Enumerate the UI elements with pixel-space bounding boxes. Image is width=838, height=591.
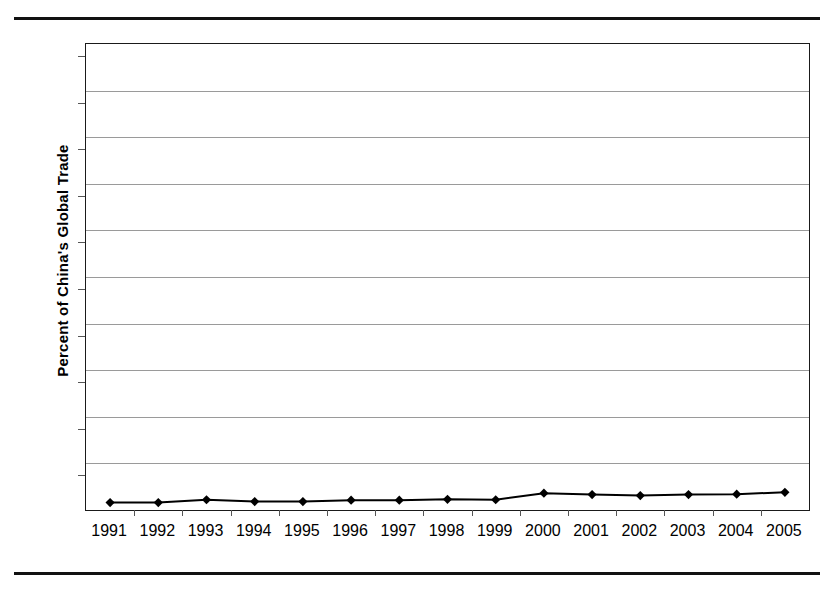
y-tick-mark-30 xyxy=(78,382,85,383)
x-tick-mark-5 xyxy=(327,510,328,516)
data-point-1993 xyxy=(202,495,211,504)
data-point-2003 xyxy=(684,490,693,499)
x-tick-label-2005: 2005 xyxy=(749,522,819,540)
x-tick-mark-6 xyxy=(375,510,376,516)
data-point-2001 xyxy=(588,490,597,499)
x-tick-mark-13 xyxy=(713,510,714,516)
x-tick-mark-10 xyxy=(568,510,569,516)
data-point-2004 xyxy=(732,490,741,499)
y-tick-mark-20 xyxy=(78,429,85,430)
chart-figure: Percent of China's Global Trade 01020304… xyxy=(0,30,838,565)
y-tick-mark-80 xyxy=(78,149,85,150)
x-tick-mark-11 xyxy=(616,510,617,516)
x-tick-mark-9 xyxy=(520,510,521,516)
y-tick-mark-100 xyxy=(78,56,85,57)
y-tick-mark-70 xyxy=(78,196,85,197)
data-point-1997 xyxy=(395,496,404,505)
data-point-1999 xyxy=(491,495,500,504)
y-tick-mark-90 xyxy=(78,103,85,104)
data-point-1998 xyxy=(443,495,452,504)
x-tick-mark-7 xyxy=(423,510,424,516)
data-point-2005 xyxy=(780,488,789,497)
data-point-1996 xyxy=(347,496,356,505)
data-point-1991 xyxy=(106,498,115,507)
x-tick-mark-1 xyxy=(134,510,135,516)
x-tick-mark-3 xyxy=(231,510,232,516)
data-series-line xyxy=(86,44,809,510)
x-tick-mark-4 xyxy=(279,510,280,516)
x-tick-mark-14 xyxy=(761,510,762,516)
data-point-2000 xyxy=(539,489,548,498)
x-axis-labels: 1991199219931994199519961997199819992000… xyxy=(85,522,810,552)
chart-page: Percent of China's Global Trade 01020304… xyxy=(0,0,838,591)
y-tick-mark-60 xyxy=(78,242,85,243)
x-tick-mark-8 xyxy=(472,510,473,516)
data-point-1995 xyxy=(298,497,307,506)
y-tick-mark-10 xyxy=(78,475,85,476)
data-point-1994 xyxy=(250,497,259,506)
x-tick-mark-2 xyxy=(182,510,183,516)
bottom-divider-rule xyxy=(14,572,820,575)
top-divider-rule xyxy=(14,17,820,20)
data-point-1992 xyxy=(154,498,163,507)
y-tick-mark-40 xyxy=(78,336,85,337)
data-point-2002 xyxy=(636,491,645,500)
plot-area xyxy=(85,43,810,511)
y-tick-mark-50 xyxy=(78,289,85,290)
x-tick-mark-12 xyxy=(664,510,665,516)
